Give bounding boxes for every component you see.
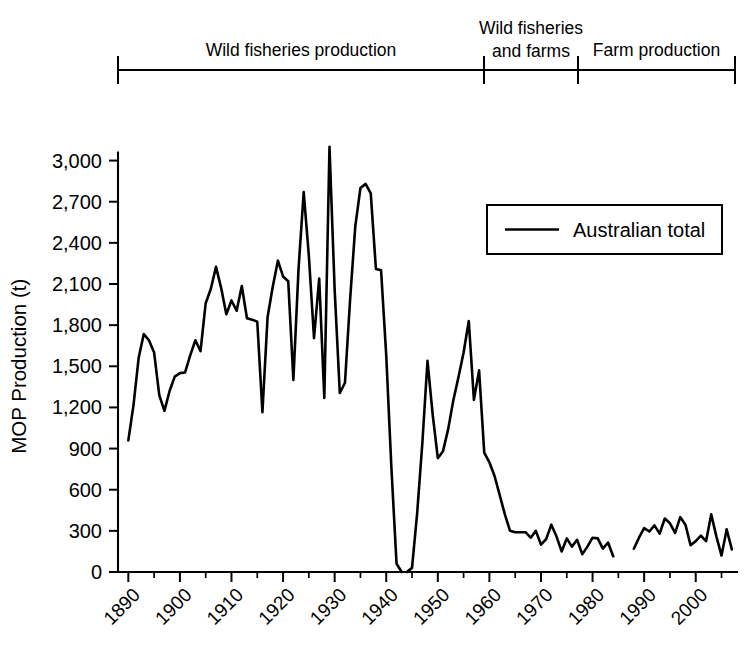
x-axis-tick-label-group: 1900 (151, 584, 196, 629)
series-line-australian-total (634, 514, 727, 555)
x-axis: 1890190019101920193019401950196019701980… (99, 572, 737, 629)
period-bracket-label: Farm production (593, 40, 720, 60)
y-axis-title: MOP Production (t) (7, 279, 30, 454)
y-axis-tick-label: 2,400 (52, 232, 102, 254)
y-axis-title-text: MOP Production (t) (7, 279, 30, 454)
period-bracket-label: and farms (492, 41, 570, 61)
y-axis-tick-label: 1,500 (52, 355, 102, 377)
x-axis-tick-label: 1920 (254, 584, 299, 629)
y-axis-tick-label: 900 (69, 438, 102, 460)
x-axis-tick-label-group: 1970 (512, 584, 557, 629)
x-axis-tick-label: 1970 (512, 584, 557, 629)
x-axis-tick-label-group: 1930 (306, 584, 351, 629)
y-axis-tick-label: 1,200 (52, 396, 102, 418)
x-axis-tick-label: 1980 (564, 584, 609, 629)
legend-label: Australian total (573, 219, 705, 241)
x-axis-tick-label: 1910 (203, 584, 248, 629)
y-axis-tick-label: 300 (69, 520, 102, 542)
x-axis-tick-label-group: 1990 (615, 584, 660, 629)
y-axis-tick-label: 3,000 (52, 150, 102, 172)
x-axis-tick-label-group: 1950 (409, 584, 454, 629)
x-axis-tick-label-group: 1920 (254, 584, 299, 629)
x-axis-tick-label-group: 1960 (460, 584, 505, 629)
x-axis-tick-label-group: 1980 (564, 584, 609, 629)
period-bracket-label: Wild fisheries production (206, 40, 397, 60)
chart-svg: Wild fisheries productionWild fisheriesa… (0, 0, 750, 650)
y-axis-tick-label: 600 (69, 479, 102, 501)
y-axis-tick-label: 1,800 (52, 314, 102, 336)
x-axis-tick-label: 1990 (615, 584, 660, 629)
x-axis-tick-label: 1960 (460, 584, 505, 629)
series-line-australian-total (407, 321, 613, 572)
x-axis-tick-label: 1950 (409, 584, 454, 629)
period-bracket-group: Wild fisheries productionWild fisheriesa… (118, 18, 735, 84)
chart-legend: Australian total (487, 205, 722, 254)
x-axis-tick-label: 1940 (357, 584, 402, 629)
x-axis-tick-label: 1930 (306, 584, 351, 629)
x-axis-tick-label: 1900 (151, 584, 196, 629)
chart-figure: Wild fisheries productionWild fisheriesa… (0, 0, 750, 650)
x-axis-tick-label-group: 2000 (667, 584, 712, 629)
period-bracket-label: Wild fisheries (479, 18, 583, 38)
y-axis-tick-label: 0 (91, 561, 102, 583)
x-axis-tick-label-group: 1940 (357, 584, 402, 629)
series-line-australian-total (727, 529, 732, 549)
x-axis-tick-label-group: 1890 (99, 584, 144, 629)
series-line-australian-total (128, 147, 401, 572)
y-axis: 03006009001,2001,5001,8002,1002,4002,700… (52, 150, 118, 583)
x-axis-tick-label-group: 1910 (203, 584, 248, 629)
y-axis-tick-label: 2,100 (52, 273, 102, 295)
y-axis-tick-label: 2,700 (52, 191, 102, 213)
x-axis-tick-label: 2000 (667, 584, 712, 629)
x-axis-tick-label: 1890 (99, 584, 144, 629)
